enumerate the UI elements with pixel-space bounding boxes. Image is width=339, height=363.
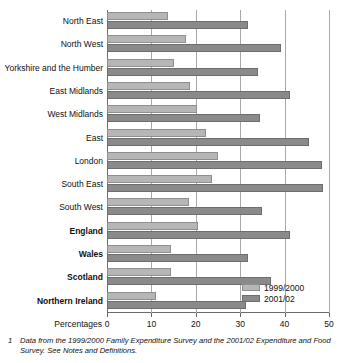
bar-2001-02 [107, 207, 262, 215]
bar-1999-2000 [107, 59, 174, 67]
bar-group [107, 103, 329, 127]
axis-tick [240, 313, 241, 317]
plot-area [107, 10, 329, 313]
bar-2001-02 [107, 231, 290, 239]
bar-rows [107, 10, 329, 313]
category-label: North East [0, 16, 103, 26]
footnote: 1 Data from the 1999/2000 Family Expendi… [8, 336, 334, 356]
category-label: South West [0, 202, 103, 212]
gridline [329, 10, 330, 313]
bar-group [107, 127, 329, 151]
category-label: England [0, 226, 103, 236]
axis-tick-label: 30 [225, 319, 255, 329]
category-label: South East [0, 179, 103, 189]
category-label: London [0, 156, 103, 166]
legend-swatch-icon-2001-02 [242, 295, 260, 302]
axis-tick [329, 313, 330, 317]
bar-group [107, 10, 329, 34]
bar-2001-02 [107, 91, 290, 99]
bar-2001-02 [107, 68, 258, 76]
bar-group [107, 80, 329, 104]
x-axis-title: Percentages [40, 319, 102, 329]
footnote-marker: 1 [8, 336, 12, 346]
bar-1999-2000 [107, 268, 171, 276]
bar-2001-02 [107, 161, 322, 169]
footnote-text: Data from the 1999/2000 Family Expenditu… [20, 336, 334, 356]
bar-1999-2000 [107, 12, 168, 20]
category-label: North West [0, 39, 103, 49]
axis-tick-label: 20 [181, 319, 211, 329]
axis-tick [107, 313, 108, 317]
bar-chart: North EastNorth WestYorkshire and the Hu… [0, 0, 339, 363]
legend-label: 1999/2000 [264, 283, 304, 293]
bar-1999-2000 [107, 222, 198, 230]
legend-label: 2001/02 [264, 294, 295, 304]
category-label: Wales [0, 249, 103, 259]
bar-2001-02 [107, 21, 248, 29]
legend-item-1999-2000: 1999/2000 [242, 283, 334, 293]
bar-2001-02 [107, 254, 248, 262]
bar-1999-2000 [107, 152, 218, 160]
bar-2001-02 [107, 114, 260, 122]
bar-1999-2000 [107, 35, 186, 43]
axis-tick [151, 313, 152, 317]
bar-1999-2000 [107, 175, 212, 183]
axis-tick [285, 313, 286, 317]
category-label: East Midlands [0, 86, 103, 96]
bar-group [107, 173, 329, 197]
bar-2001-02 [107, 44, 281, 52]
bar-1999-2000 [107, 82, 190, 90]
bar-1999-2000 [107, 292, 156, 300]
legend: 1999/2000 2001/02 [242, 283, 334, 305]
bar-group [107, 196, 329, 220]
category-label: East [0, 133, 103, 143]
axis-tick-label: 40 [270, 319, 300, 329]
category-axis-labels: North EastNorth WestYorkshire and the Hu… [0, 10, 103, 313]
category-label: Yorkshire and the Humber [0, 63, 103, 73]
bar-1999-2000 [107, 245, 171, 253]
axis-tick-label: 10 [136, 319, 166, 329]
category-label: West Midlands [0, 109, 103, 119]
category-label: Scotland [0, 272, 103, 282]
axis-tick-label: 50 [314, 319, 339, 329]
bar-group [107, 33, 329, 57]
bar-1999-2000 [107, 129, 206, 137]
bar-2001-02 [107, 138, 309, 146]
axis-tick [196, 313, 197, 317]
bar-group [107, 220, 329, 244]
bar-2001-02 [107, 184, 323, 192]
bar-group [107, 150, 329, 174]
legend-swatch-icon-1999-2000 [242, 284, 260, 291]
legend-item-2001-02: 2001/02 [242, 294, 334, 304]
bar-2001-02 [107, 301, 246, 309]
bar-1999-2000 [107, 198, 189, 206]
category-label: Northern Ireland [0, 296, 103, 306]
bar-1999-2000 [107, 105, 197, 113]
bar-group [107, 57, 329, 81]
bar-group [107, 243, 329, 267]
